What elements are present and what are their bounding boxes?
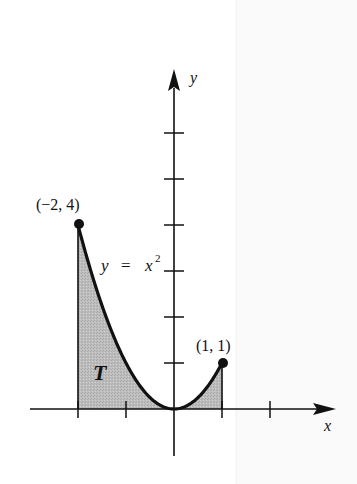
svg-text:y: y — [99, 256, 109, 275]
x-axis-label: x — [323, 417, 331, 434]
y-axis — [164, 69, 184, 456]
page-edge — [236, 0, 357, 484]
svg-text:x: x — [144, 256, 153, 275]
point-dot-neg2-4 — [74, 219, 84, 229]
svg-text:=: = — [121, 256, 131, 275]
region-label-t: T — [93, 360, 108, 385]
svg-text:2: 2 — [155, 252, 161, 264]
point-label-neg2-4: (−2, 4) — [36, 196, 80, 214]
point-label-1-1: (1, 1) — [196, 337, 231, 355]
point-dot-1-1 — [218, 358, 228, 368]
parabola-region-figure: y x (−2, 4) (1, 1) y = x 2 T — [0, 0, 357, 484]
y-axis-label: y — [188, 69, 198, 87]
equation-label: y = x 2 — [99, 252, 161, 275]
y-axis-arrow-icon — [168, 69, 180, 91]
